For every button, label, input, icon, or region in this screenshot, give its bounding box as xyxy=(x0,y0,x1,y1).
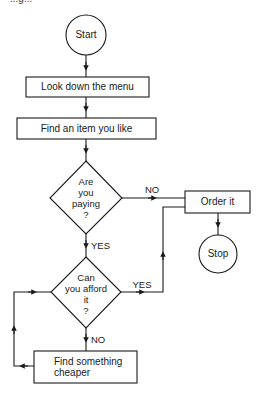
afford-label: Can you afford it ? xyxy=(56,272,116,316)
find-item-label: Find an item you like xyxy=(17,123,156,134)
afford-line-2: you afford xyxy=(56,283,116,294)
paying-line-3: paying xyxy=(56,198,116,209)
afford-line-4: ? xyxy=(56,305,116,316)
start-label: Start xyxy=(66,29,106,40)
paying-yes-label: YES xyxy=(91,240,115,251)
look-menu-label: Look down the menu xyxy=(26,81,149,92)
afford-line-1: Can xyxy=(56,272,116,283)
order-label: Order it xyxy=(185,196,250,207)
paying-line-1: Are xyxy=(56,176,116,187)
afford-no-label: NO xyxy=(91,334,115,345)
cheaper-label: Find something cheaper xyxy=(54,356,134,378)
stop-label: Stop xyxy=(198,248,238,259)
paying-line-2: you xyxy=(56,187,116,198)
paying-label: Are you paying ? xyxy=(56,176,116,220)
paying-line-4: ? xyxy=(56,209,116,220)
cheaper-line-1: Find something xyxy=(54,356,134,367)
afford-yes-label: YES xyxy=(130,279,154,290)
cut-off-header-text: ...g... xyxy=(10,0,250,4)
afford-line-3: it xyxy=(56,294,116,305)
edge-cheaper-loop xyxy=(14,292,51,366)
cheaper-line-2: cheaper xyxy=(54,367,134,378)
paying-no-label: NO xyxy=(140,184,164,195)
